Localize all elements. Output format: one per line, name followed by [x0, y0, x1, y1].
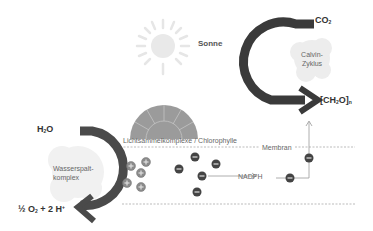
protons-mid: + 2 H	[38, 204, 62, 214]
water-splitting-line2: komplex	[53, 173, 94, 182]
ch2o-label: [CH2O]n	[320, 96, 352, 105]
oxygen-protons-label: ½ O2 + 2 H+	[18, 205, 65, 214]
h2o-tail: O	[46, 124, 53, 134]
membrane-label: Membran	[260, 144, 294, 151]
o2-pre: ½ O	[18, 204, 35, 214]
ch2o-mid: O]	[339, 95, 349, 105]
sun-icon	[137, 20, 189, 74]
water-splitting-label: Wasserspalt- komplex	[53, 164, 94, 182]
co2-label: CO2	[315, 16, 331, 25]
photosynthesis-diagram: Sonne CO2 Calvin- Zyklus [CH2O]n Lichtsa…	[0, 0, 373, 231]
ch2o-pre: [CH	[320, 95, 336, 105]
light-harvesting-label: Lichtsammelkomplexe / Chlorophylle	[123, 137, 237, 144]
sun-label: Sonne	[198, 40, 222, 48]
calvin-label-line1: Calvin-	[296, 50, 328, 59]
calvin-label-line2: Zyklus	[296, 59, 328, 68]
co2-main: CO	[315, 15, 329, 25]
co2-subscript: 2	[329, 19, 332, 25]
proton-superscript: +	[62, 204, 65, 210]
calvin-cycle-label: Calvin- Zyklus	[296, 50, 328, 68]
nadph-label: NADPH	[238, 173, 263, 180]
ch2o-subscript-n: n	[349, 99, 352, 105]
light-harvesting-complex-icon	[130, 105, 198, 139]
h2o-label: H2O	[37, 125, 53, 134]
diagram-graphics	[0, 0, 373, 231]
water-splitting-line1: Wasserspalt-	[53, 164, 94, 173]
